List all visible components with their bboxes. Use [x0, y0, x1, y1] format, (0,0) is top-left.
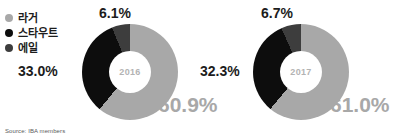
circle-marker-icon	[5, 29, 13, 37]
value-label-stout-2017: 32.3%	[200, 63, 240, 79]
donut-chart-figure: 라거 스타우트 에일 2016 6.1% 33.0% 60.9% 2017 6.…	[0, 0, 407, 138]
legend-item-label: 에일	[18, 42, 38, 54]
legend-item-lager: 라거	[5, 11, 58, 24]
circle-marker-icon	[5, 14, 13, 22]
legend-item-stout: 스타우트	[5, 26, 58, 39]
circle-marker-icon	[5, 44, 13, 52]
legend-item-ale: 에일	[5, 41, 58, 54]
value-label-lager-2016: 60.9%	[158, 93, 218, 117]
chart-legend: 라거 스타우트 에일	[5, 11, 58, 54]
donut-year-label: 2016	[119, 67, 140, 77]
value-label-stout-2016: 33.0%	[18, 63, 58, 79]
value-label-lager-2017: 61.0%	[330, 93, 390, 117]
value-label-ale-2017: 6.7%	[261, 5, 293, 21]
value-label-ale-2016: 6.1%	[99, 5, 131, 21]
donut-center-2016: 2016	[109, 51, 151, 93]
donut-year-label: 2017	[290, 67, 311, 77]
donut-center-2017: 2017	[280, 51, 322, 93]
legend-item-label: 스타우트	[18, 27, 58, 39]
source-note: Source: IBA members	[5, 128, 65, 134]
legend-item-label: 라거	[18, 12, 38, 24]
